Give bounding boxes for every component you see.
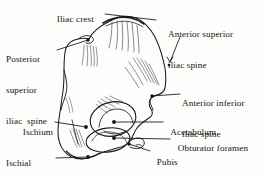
label-obturator-foramen: Obturator foramen xyxy=(173,133,248,153)
acetabulum-lunate-surface xyxy=(99,109,133,127)
marker-aiis xyxy=(150,94,153,97)
leader-ischium xyxy=(55,122,86,127)
hatch-posterior-border xyxy=(66,97,73,113)
os-coxae-outline xyxy=(58,16,166,159)
leader-ischial-tuberosity xyxy=(56,157,88,158)
label-iliac-crest: Iliac crest xyxy=(52,4,94,24)
label-asis-line1: Anterior superior xyxy=(168,29,233,39)
label-ischial-tuberosity-line1: Ischial xyxy=(6,158,44,168)
bone-outline-group xyxy=(58,16,166,159)
leader-obturator-foramen xyxy=(114,138,170,139)
label-ischium-line1: Ischium xyxy=(23,127,53,137)
label-asis-line2: iliac spine xyxy=(168,60,233,70)
leader-posterior-superior-iliac-spine xyxy=(57,40,88,50)
marker-acetabulum xyxy=(112,120,116,124)
marker-ischium xyxy=(84,125,88,129)
label-ischium: Ischium xyxy=(18,117,53,137)
hatch-gluteal-upper xyxy=(109,21,139,53)
label-pubis-line1: Pubis xyxy=(157,157,178,167)
marker-psis xyxy=(86,38,89,41)
iliac-crest-inner-edge xyxy=(106,21,143,27)
label-psis-line1: Posterior xyxy=(6,54,47,64)
label-pubis: Pubis xyxy=(152,147,178,167)
hatch-psis xyxy=(82,45,97,66)
label-obturator-foramen-line1: Obturator foramen xyxy=(178,143,248,153)
marker-pubis xyxy=(127,142,130,145)
label-iliac-crest-line1: Iliac crest xyxy=(57,14,94,24)
label-ischial-tuberosity: Ischial tuberosity xyxy=(6,138,44,176)
marker-obturator-foramen xyxy=(112,136,116,140)
hatch-ischium xyxy=(70,129,85,147)
label-aiis-line1: Anterior inferior xyxy=(182,98,245,108)
marker-ischial-tuberosity xyxy=(86,155,90,159)
hatch-anterior-ilium xyxy=(125,58,159,88)
label-anterior-superior-iliac-spine: Anterior superior iliac spine xyxy=(168,9,233,80)
label-psis-line2: superior xyxy=(6,85,47,95)
